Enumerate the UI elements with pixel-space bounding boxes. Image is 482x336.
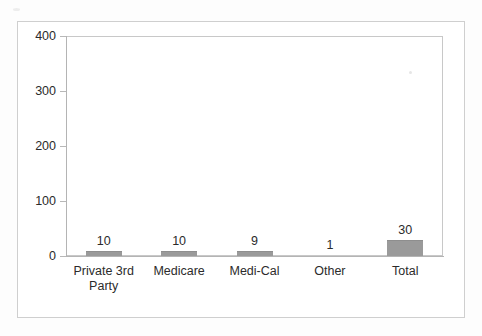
y-axis-tick-label: 200 [12,140,56,153]
y-axis-tick-label: 100 [12,195,56,208]
x-axis-category-label: Other [292,264,367,279]
x-axis-category-label: Private 3rd Party [66,264,141,294]
y-axis-tick [60,36,66,37]
bar-chart: 0100200300400 10109130 Private 3rd Party… [0,0,482,336]
y-axis-tick [60,91,66,92]
y-axis-tick-label: 0 [12,250,56,263]
y-axis-line [66,36,67,257]
bar [161,251,197,257]
bar [387,240,423,257]
bar [237,251,273,256]
scan-artifact-icon-2 [409,71,412,74]
y-axis-tick [60,256,66,257]
bar-value-label: 10 [149,235,209,248]
y-axis-tick [60,201,66,202]
y-axis-tick [60,146,66,147]
bar [86,251,122,257]
x-axis-category-label: Medicare [141,264,216,279]
bar-value-label: 1 [300,239,360,252]
scanned-page-background: 0100200300400 10109130 Private 3rd Party… [0,0,482,336]
bar-value-label: 9 [225,235,285,248]
bar-value-label: 30 [375,224,435,237]
bar-value-label: 10 [74,235,134,248]
x-axis-line [66,256,444,257]
x-axis-category-label: Medi-Cal [217,264,292,279]
x-axis-category-label: Total [368,264,443,279]
y-axis-tick-label: 300 [12,85,56,98]
y-axis-tick-label: 400 [12,30,56,43]
